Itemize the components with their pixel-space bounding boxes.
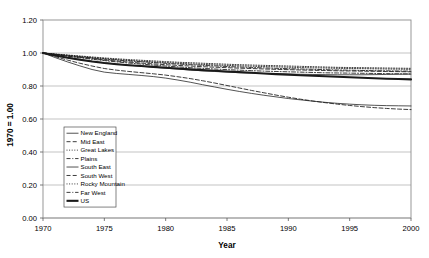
legend-label-mid-east[interactable]: Mid East xyxy=(81,138,105,145)
legend-label-rocky-mountain[interactable]: Rocky Mountain xyxy=(81,180,126,187)
legend-label-great-lakes[interactable]: Great Lakes xyxy=(81,146,115,153)
y-tick-label: 1.00 xyxy=(22,49,37,58)
x-tick-label: 1985 xyxy=(219,224,236,233)
legend-label-us[interactable]: US xyxy=(81,197,90,204)
x-tick-label: 1990 xyxy=(280,224,297,233)
legend-label-plains[interactable]: Plains xyxy=(81,155,98,162)
chart-legend[interactable]: New EnglandMid EastGreat LakesPlainsSout… xyxy=(64,127,125,207)
legend-label-south-west[interactable]: South West xyxy=(81,172,113,179)
legend-label-new-england[interactable]: New England xyxy=(81,129,118,136)
x-tick-label: 2000 xyxy=(403,224,420,233)
y-tick-label: 0.80 xyxy=(22,82,37,91)
y-tick-label: 0.20 xyxy=(22,181,37,190)
x-tick-label: 1980 xyxy=(157,224,174,233)
x-axis-title: Year xyxy=(218,241,236,250)
y-tick-label: 1.20 xyxy=(22,16,37,25)
y-tick-label: 0.40 xyxy=(22,148,37,157)
clipped-header-text xyxy=(0,0,429,4)
legend-label-far-west[interactable]: Far West xyxy=(81,189,106,196)
x-tick-label: 1995 xyxy=(341,224,358,233)
x-tick-label: 1970 xyxy=(35,224,52,233)
chart-figure: 0.000.200.400.600.801.001.20 19701975198… xyxy=(0,0,429,258)
x-tick-label: 1975 xyxy=(96,224,113,233)
y-axis-title: 1970 = 1.00 xyxy=(6,103,15,147)
y-tick-label: 0.60 xyxy=(22,115,37,124)
legend-label-south-east[interactable]: South East xyxy=(81,163,112,170)
line-chart: 0.000.200.400.600.801.001.20 19701975198… xyxy=(0,0,429,258)
y-tick-label: 0.00 xyxy=(22,214,37,223)
